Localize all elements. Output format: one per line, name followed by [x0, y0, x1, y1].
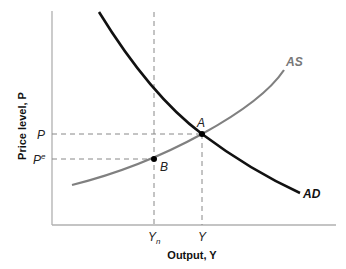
x-axis-title: Output, Y [167, 249, 217, 261]
point-b [151, 156, 157, 162]
pe-tick-label: Pe [33, 152, 46, 167]
yn-tick-label: Yn [148, 230, 161, 246]
as-label: AS [285, 55, 303, 69]
ad-label: AD [302, 187, 321, 201]
point-b-label: B [160, 160, 168, 174]
as-ad-diagram: A B AS AD P Pe Yn Y Output, Y Price leve… [0, 0, 346, 269]
point-a [199, 131, 205, 137]
ad-curve [99, 12, 300, 193]
y-tick-label: Y [198, 230, 207, 244]
point-a-label: A [196, 116, 205, 130]
y-axis-title: Price level, P [16, 92, 28, 160]
p-tick-label: P [37, 128, 45, 142]
